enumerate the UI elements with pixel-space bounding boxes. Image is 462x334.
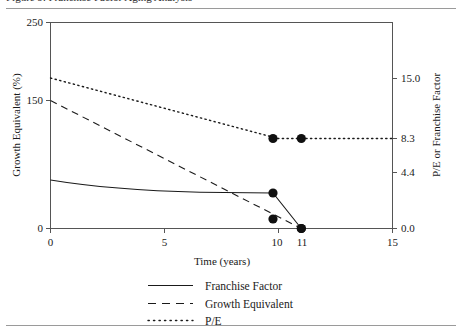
x-tick-label-5: 5: [162, 236, 168, 248]
left-axis: 250 150 0 Growth Equivalent (%): [10, 16, 51, 234]
x-tick-label-11: 11: [297, 236, 308, 248]
x-tick-label-10: 10: [272, 236, 284, 248]
left-tick-label-0: 0: [38, 222, 44, 234]
series-growth-equivalent-marker-x10: [268, 214, 277, 223]
chart-svg: 250 150 0 Growth Equivalent (%) 15.0 8.3…: [0, 0, 462, 334]
x-axis-title: Time (years): [194, 255, 250, 268]
legend-label-franchise-factor: Franchise Factor: [205, 280, 282, 292]
series-pe-marker-x11: [297, 134, 306, 143]
series-franchise-factor-line: [51, 180, 302, 229]
series-pe: [51, 78, 393, 143]
left-tick-label-150: 150: [27, 94, 44, 106]
series-growth-equivalent: [51, 101, 306, 234]
x-axis: 0 5 10 11 15 Time (years): [48, 229, 399, 269]
left-axis-title: Growth Equivalent (%): [10, 73, 23, 177]
legend-label-pe: P/E: [205, 315, 222, 327]
right-axis-title: P/E or Franchise Factor: [430, 73, 442, 178]
series-pe-line: [51, 78, 393, 139]
series-franchise-factor: [51, 180, 306, 233]
series-franchise-factor-marker-x10: [268, 188, 277, 197]
left-tick-label-250: 250: [27, 16, 44, 28]
figure-container: Figure 9. Franchise Factor Aging Analysi…: [0, 0, 462, 334]
x-tick-label-0: 0: [48, 236, 54, 248]
series-franchise-factor-marker-x11: [297, 224, 306, 233]
right-tick-label-0: 0.0: [401, 222, 415, 234]
legend: Franchise Factor Growth Equivalent P/E: [148, 280, 294, 327]
legend-label-growth-equivalent: Growth Equivalent: [205, 298, 294, 311]
series-growth-equivalent-line: [51, 101, 302, 229]
right-axis: 15.0 8.3 4.4 0.0 P/E or Franchise Factor: [393, 72, 443, 234]
right-tick-label-8-3: 8.3: [401, 132, 415, 144]
x-tick-label-15: 15: [387, 236, 399, 248]
series-pe-marker-x10: [268, 134, 277, 143]
plot-frame: [51, 23, 393, 229]
right-tick-label-15: 15.0: [401, 72, 421, 84]
right-tick-label-4-4: 4.4: [401, 166, 415, 178]
